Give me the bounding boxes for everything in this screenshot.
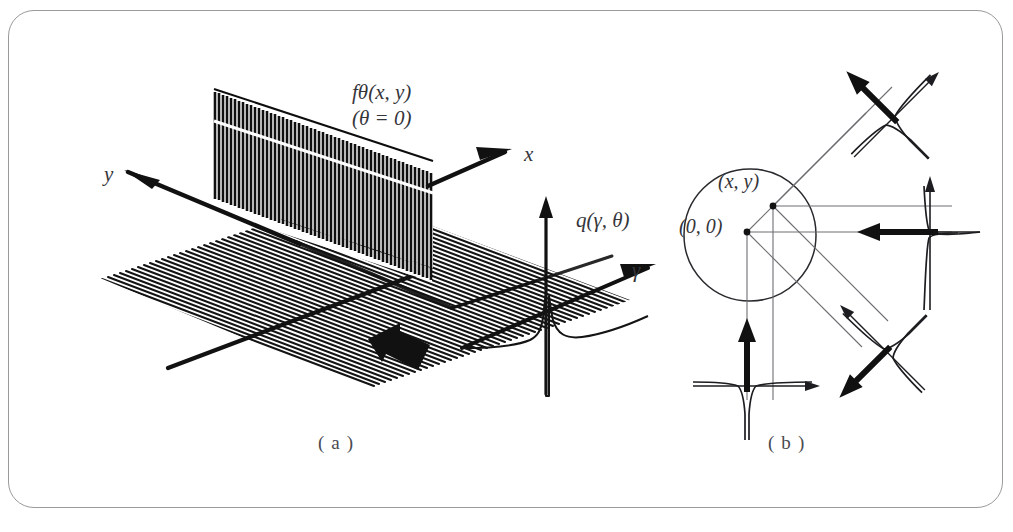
label-axis-gamma: γ <box>632 258 640 283</box>
point-origin <box>744 229 751 236</box>
panel-a-artwork <box>90 89 656 405</box>
axis-x-arrow <box>428 147 512 186</box>
label-axis-x: x <box>524 142 533 167</box>
caption-panel-b: ( b ) <box>768 432 805 454</box>
label-axis-y: y <box>104 162 113 187</box>
detector-bottom <box>693 318 820 440</box>
label-point-xy: (x, y) <box>718 170 759 194</box>
detector-upper-right <box>807 25 977 195</box>
figure-artwork <box>0 0 1013 532</box>
detector-lower-right <box>793 267 963 437</box>
label-theta-zero: (θ = 0) <box>352 106 411 131</box>
point-xy <box>770 203 777 210</box>
detector-right <box>857 176 980 310</box>
construction-rays <box>747 87 952 400</box>
figure-root: fθ(x, y) (θ = 0) x y q(γ, θ) γ (x, y) (0… <box>0 0 1013 532</box>
label-projection-q: q(γ, θ) <box>576 208 630 233</box>
label-f-theta: fθ(x, y) <box>352 80 411 105</box>
panel-b-artwork <box>684 25 980 440</box>
label-point-origin: (0, 0) <box>679 215 722 239</box>
caption-panel-a: ( a ) <box>318 432 354 454</box>
